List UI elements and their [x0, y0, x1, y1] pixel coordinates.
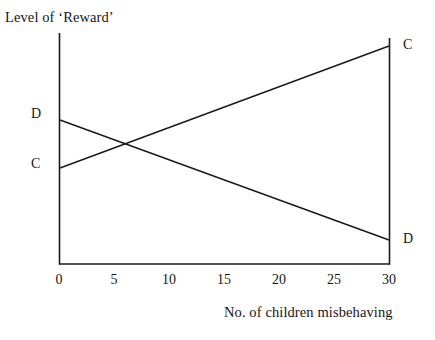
x-tick-label-30: 30 — [382, 272, 396, 288]
x-tick-label-0: 0 — [56, 272, 63, 288]
plot-area — [0, 0, 435, 340]
x-tick-label-5: 5 — [111, 272, 118, 288]
x-tick-label-25: 25 — [327, 272, 341, 288]
series-label-c-left: C — [31, 156, 40, 172]
x-tick-label-10: 10 — [162, 272, 176, 288]
chart-figure: Level of ‘Reward’ D C C D 0 5 10 15 20 2… — [0, 0, 435, 340]
series-line-c — [60, 46, 389, 168]
series-label-d-right: D — [403, 231, 413, 247]
x-tick-label-20: 20 — [272, 272, 286, 288]
series-label-d-left: D — [31, 106, 41, 122]
series-line-d — [60, 120, 389, 240]
x-axis-label: No. of children misbehaving — [224, 303, 393, 321]
series-label-c-right: C — [403, 37, 412, 53]
x-tick-label-15: 15 — [217, 272, 231, 288]
